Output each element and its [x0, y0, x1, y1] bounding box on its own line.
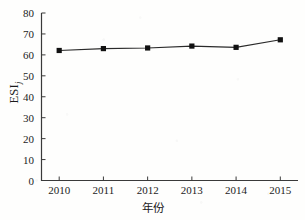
x-axis-tick-label: 2011 — [83, 185, 123, 196]
y-axis-tick-label: 40 — [12, 91, 34, 102]
series-line — [59, 40, 280, 51]
data-point-marker — [233, 45, 238, 50]
x-axis-tick-label: 2015 — [260, 185, 300, 196]
data-point-marker — [189, 43, 194, 48]
x-axis-tick-label: 2013 — [172, 185, 212, 196]
data-point-marker — [145, 45, 150, 50]
y-axis-tick-label: 30 — [12, 112, 34, 123]
y-axis-tick-label: 10 — [12, 154, 34, 165]
y-axis-title-subscript: j — [13, 82, 23, 85]
axis-lines — [41, 13, 298, 181]
data-point-marker — [278, 37, 283, 42]
y-axis-tick-label: 20 — [12, 133, 34, 144]
y-axis-tick-label: 60 — [12, 49, 34, 60]
y-axis-tick-label: 0 — [12, 175, 34, 186]
data-point-marker — [57, 48, 62, 53]
x-axis-tick-label: 2012 — [128, 185, 168, 196]
data-point-marker — [101, 46, 106, 51]
y-axis-tick-label: 80 — [12, 8, 34, 19]
x-axis-tick-label: 2014 — [216, 185, 256, 196]
x-axis-title-text: 年份 — [142, 201, 164, 215]
x-axis-tick-label: 2010 — [39, 185, 79, 196]
x-axis-title: 年份 — [0, 199, 305, 216]
chart-container: ESIj 01020304050607080 20102011201220132… — [0, 0, 305, 220]
y-axis-tick-label: 50 — [12, 70, 34, 81]
y-axis-tick-label: 70 — [12, 28, 34, 39]
